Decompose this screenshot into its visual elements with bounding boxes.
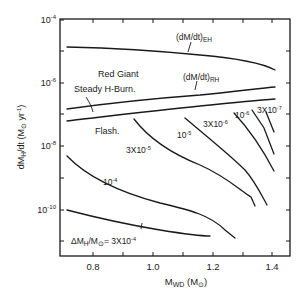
- label-3e-5: 3X10-5: [126, 145, 151, 155]
- svg-text:10-8: 10-8: [41, 140, 57, 151]
- curve-3e-4: [67, 210, 210, 236]
- curve-eh: [67, 47, 275, 70]
- y-axis-title: dMH/dt (M⊙ yr-1): [16, 105, 27, 170]
- svg-text:10-4: 10-4: [41, 14, 57, 25]
- x-axis-title: MWD (M⊙): [165, 276, 207, 288]
- region-label-flash: Flash.: [95, 126, 120, 136]
- plot-frame: [60, 19, 290, 256]
- arrow-rh: [195, 81, 197, 90]
- curve-3e-7: [266, 112, 274, 132]
- x-tick-labels: 0.8 1.0 1.2 1.4: [86, 261, 278, 272]
- arrow-3e-4: [141, 223, 142, 229]
- y-tick-labels: 10-4 10-6 10-8 10-10: [37, 14, 56, 215]
- label-rh: (dM/dt)RH: [183, 72, 220, 83]
- label-3e-4: ΔMH/M⊙= 3X10-4: [71, 236, 136, 247]
- label-eh: (dM/dt)EH: [176, 32, 212, 43]
- svg-text:0.8: 0.8: [86, 261, 99, 272]
- label-3e-6: 3X10-6: [203, 119, 228, 129]
- svg-text:1.2: 1.2: [206, 261, 219, 272]
- region-label-steady: Steady H-Burn.: [74, 84, 136, 94]
- curve-1e-5: [185, 118, 267, 205]
- svg-text:10-6: 10-6: [41, 77, 57, 88]
- label-3e-7: 3X10-7: [257, 105, 282, 115]
- chart: 10-4 10-6 10-8 10-10 0.8 1.0 1.2 1.4 MWD…: [0, 0, 303, 296]
- arrow-steady: [86, 97, 93, 112]
- label-1e-6: 10-6: [235, 110, 249, 120]
- svg-text:10-10: 10-10: [37, 204, 56, 215]
- svg-text:1.0: 1.0: [146, 261, 159, 272]
- curve-1e-6: [252, 110, 274, 154]
- region-label-red-giant: Red Giant: [98, 69, 139, 79]
- arrow-eh: [188, 42, 191, 52]
- label-1e-4: 10-4: [103, 177, 117, 187]
- svg-text:1.4: 1.4: [265, 261, 278, 272]
- curve-1e-4: [67, 156, 235, 238]
- label-1e-5: 10-5: [177, 130, 191, 140]
- curve-3e-6: [234, 113, 274, 171]
